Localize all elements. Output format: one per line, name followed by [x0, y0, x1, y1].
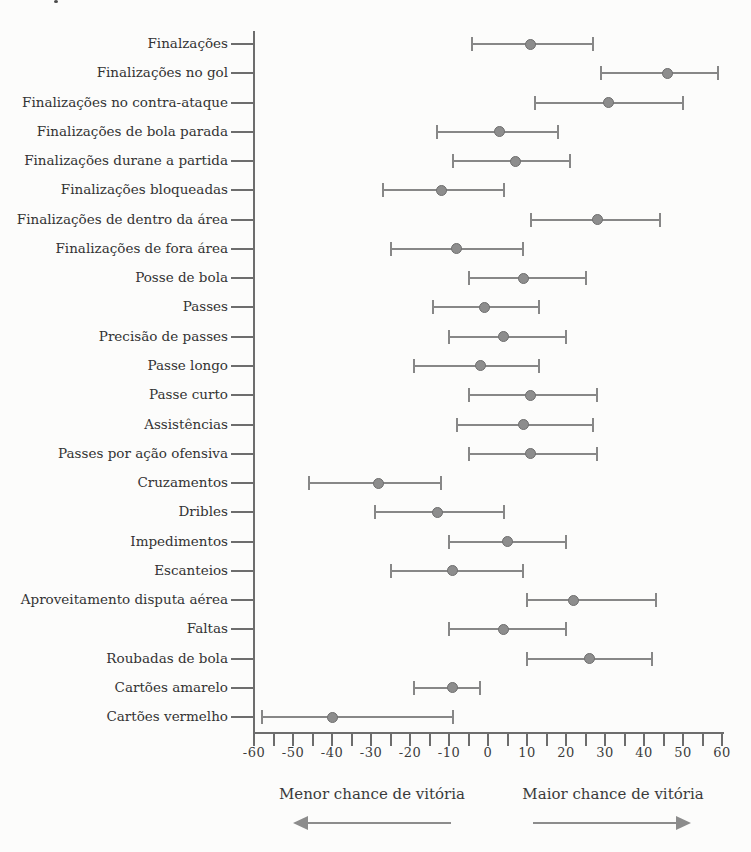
interval-cap-low: [390, 242, 392, 256]
category-label: Finalizações de bola parada: [0, 123, 228, 140]
interval-cap-low: [471, 37, 473, 51]
right-arrow-icon: [533, 816, 691, 830]
interval-cap-high: [538, 300, 540, 314]
category-label: Precisão de passes: [0, 328, 228, 345]
category-label: Cartões amarelo: [0, 679, 228, 696]
interval-line: [527, 599, 656, 601]
mean-dot: [525, 448, 536, 459]
mean-dot: [510, 156, 521, 167]
mean-dot: [592, 214, 603, 225]
category-label: Passe curto: [0, 386, 228, 403]
interval-cap-high: [655, 593, 657, 607]
left-arrow-icon: [293, 816, 451, 830]
category-axis-tick: [231, 72, 253, 74]
category-axis-tick: [231, 160, 253, 162]
mean-dot: [525, 39, 536, 50]
category-axis-tick: [231, 306, 253, 308]
interval-cap-high: [452, 710, 454, 724]
category-label: Cruzamentos: [0, 474, 228, 491]
category-axis-tick: [231, 336, 253, 338]
x-axis-tick-label: 20: [544, 745, 588, 760]
category-label: Passes por ação ofensiva: [0, 445, 228, 462]
category-axis-tick: [231, 658, 253, 660]
x-axis-tick-label: 30: [583, 745, 627, 760]
interval-cap-high: [565, 535, 567, 549]
interval-cap-low: [436, 125, 438, 139]
mean-dot: [498, 624, 509, 635]
interval-cap-high: [503, 183, 505, 197]
interval-cap-high: [522, 242, 524, 256]
interval-cap-low: [534, 96, 536, 110]
category-label: Finalizações de fora área: [0, 240, 228, 257]
interval-cap-low: [374, 505, 376, 519]
printed-chart-page: -60-50-40-30-20-100102030405060 Finalzaç…: [0, 0, 751, 852]
category-axis-tick: [231, 277, 253, 279]
interval-cap-high: [659, 213, 661, 227]
print-artifact-speck: [54, 0, 58, 3]
interval-cap-high: [596, 447, 598, 461]
category-axis-tick: [231, 219, 253, 221]
mean-dot: [436, 185, 447, 196]
x-axis-tick-label: -30: [349, 745, 393, 760]
mean-dot: [373, 478, 384, 489]
interval-cap-low: [530, 213, 532, 227]
mean-dot: [447, 565, 458, 576]
interval-cap-low: [261, 710, 263, 724]
category-label: Faltas: [0, 620, 228, 637]
interval-cap-high: [557, 125, 559, 139]
category-label: Posse de bola: [0, 269, 228, 286]
x-axis-tick-label: -60: [232, 745, 276, 760]
x-axis-tick-label: 10: [505, 745, 549, 760]
interval-cap-high: [596, 388, 598, 402]
category-label: Cartões vermelho: [0, 708, 228, 725]
mean-dot: [525, 390, 536, 401]
category-axis-tick: [231, 365, 253, 367]
category-axis-tick: [231, 424, 253, 426]
category-axis-tick: [231, 102, 253, 104]
category-axis-tick: [231, 482, 253, 484]
category-axis-tick: [231, 628, 253, 630]
category-axis-tick: [231, 541, 253, 543]
category-label: Finalizações de dentro da área: [0, 211, 228, 228]
category-axis-tick: [231, 43, 253, 45]
interval-cap-low: [526, 652, 528, 666]
interval-cap-high: [440, 476, 442, 490]
y-axis-line: [253, 31, 255, 733]
interval-cap-high: [479, 681, 481, 695]
category-label: Impedimentos: [0, 533, 228, 550]
category-label: Passes: [0, 298, 228, 315]
right-arrow-shaft: [533, 822, 679, 824]
category-label: Aproveitamento disputa aérea: [0, 591, 228, 608]
mean-dot: [451, 243, 462, 254]
interval-cap-low: [448, 622, 450, 636]
interval-cap-low: [390, 564, 392, 578]
interval-cap-low: [456, 418, 458, 432]
category-axis-tick: [231, 189, 253, 191]
interval-cap-high: [651, 652, 653, 666]
mean-dot: [603, 97, 614, 108]
interval-cap-low: [452, 154, 454, 168]
interval-cap-high: [503, 505, 505, 519]
category-axis-tick: [231, 394, 253, 396]
x-axis-tick-label: -40: [310, 745, 354, 760]
category-label: Finalizações no contra-ataque: [0, 94, 228, 111]
interval-cap-low: [600, 66, 602, 80]
interval-cap-low: [413, 681, 415, 695]
x-axis-tick-label: 60: [700, 745, 744, 760]
legend-right-label: Maior chance de vitória: [503, 785, 723, 803]
interval-cap-low: [448, 535, 450, 549]
category-axis-tick: [231, 453, 253, 455]
category-label: Finalizações no gol: [0, 64, 228, 81]
mean-dot: [518, 419, 529, 430]
mean-dot: [498, 331, 509, 342]
category-axis-tick: [231, 248, 253, 250]
category-axis-tick: [231, 570, 253, 572]
x-axis-tick-label: -50: [271, 745, 315, 760]
mean-dot: [502, 536, 513, 547]
interval-cap-low: [382, 183, 384, 197]
interval-cap-high: [565, 622, 567, 636]
category-label: Roubadas de bola: [0, 650, 228, 667]
mean-dot: [518, 273, 529, 284]
category-label: Assistências: [0, 416, 228, 433]
interval-cap-low: [308, 476, 310, 490]
